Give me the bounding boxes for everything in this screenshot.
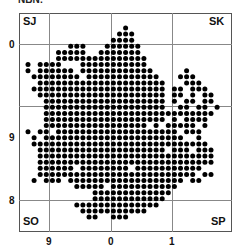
record-dot	[154, 99, 159, 104]
record-dot	[135, 62, 140, 67]
record-dot	[154, 93, 159, 98]
record-dot	[74, 135, 79, 140]
record-dot	[135, 74, 140, 79]
record-dot	[87, 56, 92, 61]
record-dot	[68, 160, 73, 165]
record-dot	[202, 148, 207, 153]
record-dot	[117, 172, 122, 177]
record-dot	[99, 105, 104, 110]
record-dot	[93, 117, 98, 122]
record-dot	[196, 148, 201, 153]
record-dot	[196, 117, 201, 122]
record-dot	[56, 166, 61, 171]
record-dot	[44, 87, 49, 92]
record-dot	[87, 166, 92, 171]
record-dot	[117, 215, 122, 220]
record-dot	[74, 184, 79, 189]
record-dot	[111, 178, 116, 183]
record-dot	[105, 141, 110, 146]
record-dot	[80, 87, 85, 92]
record-dot	[74, 56, 79, 61]
record-dot	[50, 148, 55, 153]
record-dot	[56, 148, 61, 153]
record-dot	[148, 80, 153, 85]
record-dot	[166, 172, 171, 177]
record-dot	[38, 129, 43, 134]
record-dot	[87, 117, 92, 122]
record-dot	[93, 62, 98, 67]
record-dot	[141, 160, 146, 165]
record-dot	[87, 184, 92, 189]
record-dot	[178, 87, 183, 92]
record-dot	[62, 123, 67, 128]
record-dot	[141, 154, 146, 159]
record-dot	[148, 68, 153, 73]
record-dot	[172, 111, 177, 116]
record-dot	[87, 172, 92, 177]
record-dot	[26, 129, 31, 134]
record-dot	[160, 105, 165, 110]
record-dot	[62, 74, 67, 79]
record-dot	[44, 99, 49, 104]
record-dot	[178, 178, 183, 183]
record-dot	[74, 74, 79, 79]
record-dot	[178, 135, 183, 140]
record-dot	[68, 74, 73, 79]
record-dot	[196, 160, 201, 165]
record-dot	[172, 135, 177, 140]
record-dot	[160, 111, 165, 116]
record-dot	[62, 93, 67, 98]
record-dot	[93, 160, 98, 165]
record-dot	[117, 166, 122, 171]
record-dot	[93, 215, 98, 220]
record-dot	[117, 178, 122, 183]
record-dot	[93, 172, 98, 177]
record-dot	[99, 74, 104, 79]
record-dot	[160, 93, 165, 98]
record-dot	[123, 129, 128, 134]
corner-label-so: SO	[23, 215, 39, 227]
record-dot	[190, 129, 195, 134]
record-dot	[32, 135, 37, 140]
record-dot	[178, 166, 183, 171]
record-dot	[190, 99, 195, 104]
record-dot	[50, 111, 55, 116]
record-dot	[135, 80, 140, 85]
record-dot	[74, 123, 79, 128]
record-dot	[99, 160, 104, 165]
record-dot	[135, 178, 140, 183]
record-dot	[160, 166, 165, 171]
record-dot	[154, 111, 159, 116]
record-dot	[135, 172, 140, 177]
record-dot	[129, 68, 134, 73]
record-dot	[80, 160, 85, 165]
record-dot	[148, 154, 153, 159]
record-dot	[87, 68, 92, 73]
record-dot	[154, 129, 159, 134]
record-dot	[111, 148, 116, 153]
record-dot	[129, 105, 134, 110]
record-dot	[190, 172, 195, 177]
record-dot	[196, 166, 201, 171]
record-dot	[196, 154, 201, 159]
record-dot	[190, 111, 195, 116]
record-dot	[93, 141, 98, 146]
record-dot	[123, 38, 128, 43]
record-dot	[172, 166, 177, 171]
record-dot	[117, 184, 122, 189]
record-dot	[129, 80, 134, 85]
record-dot	[74, 160, 79, 165]
record-dot	[62, 154, 67, 159]
record-dot	[111, 209, 116, 214]
record-dot	[68, 50, 73, 55]
record-dot	[135, 148, 140, 153]
record-dot	[209, 111, 214, 116]
record-dot	[80, 111, 85, 116]
record-dot	[56, 111, 61, 116]
record-dot	[56, 50, 61, 55]
record-dot	[160, 87, 165, 92]
record-dot	[38, 154, 43, 159]
record-dot	[87, 202, 92, 207]
record-dot	[202, 99, 207, 104]
record-dot	[80, 62, 85, 67]
